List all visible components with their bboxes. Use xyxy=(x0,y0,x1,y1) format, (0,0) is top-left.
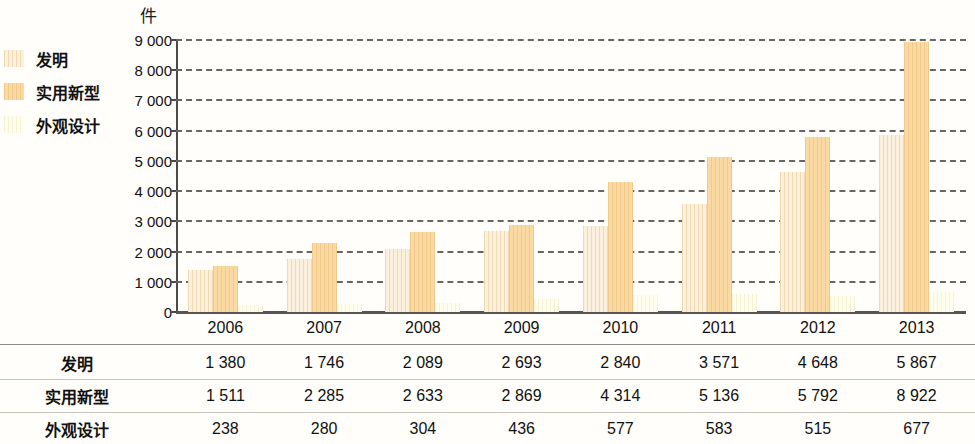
y-axis-tick-label: 5 000 xyxy=(118,152,172,169)
bar-groups xyxy=(176,40,966,312)
y-axis-tick-label: 3 000 xyxy=(118,213,172,230)
table-cell: 583 xyxy=(670,420,769,438)
table-cell: 577 xyxy=(571,420,670,438)
table-cell: 1 511 xyxy=(176,387,275,405)
table-cell: 2 693 xyxy=(472,354,571,372)
bar-group xyxy=(867,40,966,312)
plot-region xyxy=(176,40,966,312)
bar[interactable] xyxy=(780,172,805,312)
table-cell: 3 571 xyxy=(670,354,769,372)
y-axis-tick-labels: 9 0008 0007 0006 0005 0004 0003 0002 000… xyxy=(118,40,172,312)
table-cell: 436 xyxy=(472,420,571,438)
bar[interactable] xyxy=(830,296,855,312)
chart-page: 件 发明实用新型外观设计 9 0008 0007 0006 0005 0004 … xyxy=(0,0,975,444)
bar[interactable] xyxy=(435,303,460,312)
table-cell: 2 840 xyxy=(571,354,670,372)
bar[interactable] xyxy=(484,231,509,312)
table-row: 发明1 3801 7462 0892 6932 8403 5714 6485 8… xyxy=(0,346,975,379)
bar-group xyxy=(176,40,275,312)
table-cell: 677 xyxy=(867,420,966,438)
table-cell: 2 633 xyxy=(374,387,473,405)
y-axis-tick-label: 1 000 xyxy=(118,273,172,290)
table-cell: 5 792 xyxy=(769,387,868,405)
bar-group xyxy=(769,40,868,312)
bar[interactable] xyxy=(732,294,757,312)
table-cell: 304 xyxy=(374,420,473,438)
bar[interactable] xyxy=(929,292,954,312)
bar[interactable] xyxy=(879,135,904,312)
table-cell: 515 xyxy=(769,420,868,438)
y-axis-tick-label: 6 000 xyxy=(118,122,172,139)
bar[interactable] xyxy=(287,259,312,312)
bar-group xyxy=(472,40,571,312)
y-axis-tick-label: 8 000 xyxy=(118,62,172,79)
x-axis-tick-label: 2010 xyxy=(571,315,670,343)
table-top-rule xyxy=(0,344,975,345)
table-row: 外观设计238280304436577583515677 xyxy=(0,412,975,444)
table-cell: 238 xyxy=(176,420,275,438)
y-axis-tick-label: 9 000 xyxy=(118,32,172,49)
bar[interactable] xyxy=(410,232,435,312)
x-axis-tick-label: 2008 xyxy=(374,315,473,343)
bar[interactable] xyxy=(238,305,263,312)
table-row-label: 发明 xyxy=(0,351,176,375)
bar[interactable] xyxy=(337,304,362,312)
y-axis-tick-label: 7 000 xyxy=(118,92,172,109)
bar[interactable] xyxy=(608,182,633,312)
table-cell: 1 746 xyxy=(275,354,374,372)
bar-group xyxy=(374,40,473,312)
y-axis-tick-label: 4 000 xyxy=(118,183,172,200)
bar[interactable] xyxy=(188,270,213,312)
table-cell: 280 xyxy=(275,420,374,438)
chart-area: 9 0008 0007 0006 0005 0004 0003 0002 000… xyxy=(0,0,975,330)
table-row-label: 实用新型 xyxy=(0,384,176,408)
bar[interactable] xyxy=(633,295,658,312)
x-axis-tick-label: 2012 xyxy=(769,315,868,343)
table-cell: 2 089 xyxy=(374,354,473,372)
table-cell: 2 285 xyxy=(275,387,374,405)
bar[interactable] xyxy=(682,204,707,312)
table-row-cells: 238280304436577583515677 xyxy=(176,420,966,438)
table-row-cells: 1 5112 2852 6332 8694 3145 1365 7928 922 xyxy=(176,387,966,405)
table-row-cells: 1 3801 7462 0892 6932 8403 5714 6485 867 xyxy=(176,354,966,372)
x-axis-tick-label: 2007 xyxy=(275,315,374,343)
table-row: 实用新型1 5112 2852 6332 8694 3145 1365 7928… xyxy=(0,379,975,412)
bar[interactable] xyxy=(583,226,608,312)
x-axis-tick-label: 2009 xyxy=(472,315,571,343)
bar-group xyxy=(275,40,374,312)
table-cell: 4 314 xyxy=(571,387,670,405)
bar[interactable] xyxy=(707,157,732,312)
bar[interactable] xyxy=(385,249,410,312)
bar[interactable] xyxy=(509,225,534,312)
bar[interactable] xyxy=(904,42,929,312)
x-axis-tick-label: 2013 xyxy=(867,315,966,343)
table-cell: 2 869 xyxy=(472,387,571,405)
x-axis-tick-label: 2006 xyxy=(176,315,275,343)
x-axis-tick-labels: 20062007200820092010201120122013 xyxy=(176,315,966,343)
data-table: 发明1 3801 7462 0892 6932 8403 5714 6485 8… xyxy=(0,344,975,444)
bar[interactable] xyxy=(805,137,830,312)
x-axis-tick-label: 2011 xyxy=(670,315,769,343)
table-cell: 1 380 xyxy=(176,354,275,372)
y-axis-tick-label: 0 xyxy=(118,304,172,321)
table-cell: 5 136 xyxy=(670,387,769,405)
table-cell: 4 648 xyxy=(769,354,868,372)
table-cell: 8 922 xyxy=(867,387,966,405)
bar-group xyxy=(571,40,670,312)
bar[interactable] xyxy=(534,299,559,312)
table-row-label: 外观设计 xyxy=(0,417,176,441)
bar-group xyxy=(670,40,769,312)
table-cell: 5 867 xyxy=(867,354,966,372)
bar[interactable] xyxy=(312,243,337,312)
bar[interactable] xyxy=(213,266,238,312)
y-axis-tick-label: 2 000 xyxy=(118,243,172,260)
